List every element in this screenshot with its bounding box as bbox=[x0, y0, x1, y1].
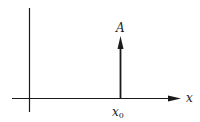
impulse-position-label: x0 bbox=[112, 105, 124, 120]
delta-function-diagram: x A x0 bbox=[0, 0, 200, 122]
impulse-arrowhead-icon bbox=[118, 36, 124, 49]
x-axis-arrowhead-icon bbox=[168, 96, 181, 102]
position-label-subscript: 0 bbox=[119, 111, 124, 120]
x-axis-label: x bbox=[186, 91, 193, 105]
amplitude-label: A bbox=[115, 21, 125, 35]
